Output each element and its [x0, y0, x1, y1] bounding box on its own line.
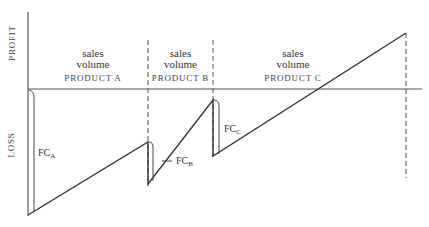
profit-axis-label: PROFIT: [7, 23, 17, 63]
segment-c-label-volume: volume: [213, 59, 373, 70]
segment-a-product: PRODUCT A: [38, 73, 148, 83]
fc-c-label: FCC: [224, 123, 241, 136]
fc-c-brace: [214, 100, 219, 154]
fc-a-label: FCA: [38, 147, 55, 160]
fc-c-subscript: C: [236, 128, 241, 136]
fc-b-text: FC: [176, 155, 188, 166]
profit-volume-diagram: [0, 0, 429, 227]
fc-a-brace: [29, 90, 34, 211]
fc-a-text: FC: [38, 147, 50, 158]
segment-a-label-volume: volume: [38, 59, 148, 70]
loss-axis-label: LOSS: [6, 130, 16, 160]
fc-b-subscript: B: [188, 160, 193, 168]
fc-a-subscript: A: [50, 152, 55, 160]
segment-b-product: PRODUCT B: [148, 73, 213, 83]
fc-b-label: FCB: [176, 155, 193, 168]
fc-b-brace: [149, 142, 153, 181]
segment-c-product: PRODUCT C: [213, 73, 373, 83]
fc-c-text: FC: [224, 123, 236, 134]
segment-b-label-volume: volume: [148, 59, 213, 70]
